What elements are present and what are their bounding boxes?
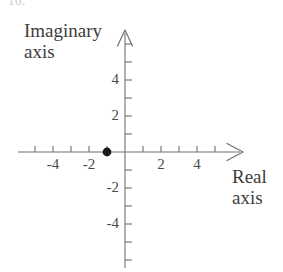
real-axis-label-line2: axis	[232, 187, 267, 208]
y-tick-label--4: -4	[93, 215, 119, 232]
imaginary-axis-label: Imaginary axis	[24, 20, 102, 63]
x-tick-label-2: 2	[152, 156, 170, 173]
imaginary-axis-label-line2: axis	[24, 41, 102, 62]
axes-group	[18, 30, 243, 268]
figure-canvas: 10.	[0, 0, 283, 272]
real-axis-label: Real axis	[232, 166, 267, 209]
x-tick-label-4: 4	[188, 156, 206, 173]
y-tick-label--2: -2	[93, 179, 119, 196]
imaginary-axis-label-line1: Imaginary	[24, 20, 102, 41]
x-tick-label--4: -4	[38, 156, 68, 173]
x-tick-label--2: -2	[74, 156, 104, 173]
y-tick-label-4: 4	[103, 71, 119, 88]
real-axis-label-line1: Real	[232, 166, 267, 187]
y-tick-label-2: 2	[103, 107, 119, 124]
